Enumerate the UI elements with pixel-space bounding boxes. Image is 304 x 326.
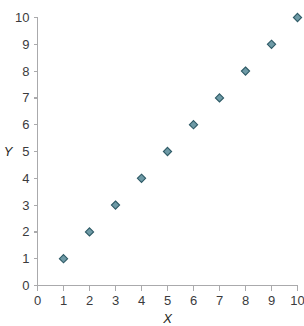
scatter-plot-figure: 012345678910 012345678910 Y X xyxy=(0,0,304,326)
y-axis-tick-label: 6 xyxy=(22,117,29,132)
x-axis-tick-label: 8 xyxy=(242,293,249,308)
y-axis-title: Y xyxy=(4,144,14,159)
x-axis-tick-label: 2 xyxy=(86,293,93,308)
y-axis-tick-label: 0 xyxy=(22,278,29,293)
y-axis-tick-label: 4 xyxy=(22,171,29,186)
x-axis-tick-label: 3 xyxy=(112,293,119,308)
y-axis-tick-label: 2 xyxy=(22,224,29,239)
y-axis-tick-label: 9 xyxy=(22,37,29,52)
x-axis-tick-label: 1 xyxy=(60,293,67,308)
plot-canvas: 012345678910 012345678910 Y X xyxy=(0,0,304,326)
y-axis-tick-label: 1 xyxy=(22,251,29,266)
x-axis-tick-label: 0 xyxy=(34,293,41,308)
y-axis-tick-label: 3 xyxy=(22,198,29,213)
x-axis-tick-label: 6 xyxy=(190,293,197,308)
x-axis-title: X xyxy=(162,311,173,326)
y-axis-tick-label: 7 xyxy=(22,90,29,105)
x-axis-tick-label: 9 xyxy=(268,293,275,308)
x-axis-tick-label: 7 xyxy=(216,293,223,308)
y-axis-tick-label: 8 xyxy=(22,64,29,79)
x-axis-tick-label: 5 xyxy=(164,293,171,308)
plot-background xyxy=(0,0,304,326)
x-axis-tick-label: 4 xyxy=(138,293,145,308)
x-axis-tick-label: 10 xyxy=(290,293,304,308)
y-axis-tick-label: 5 xyxy=(22,144,29,159)
y-axis-tick-label: 10 xyxy=(15,10,29,25)
